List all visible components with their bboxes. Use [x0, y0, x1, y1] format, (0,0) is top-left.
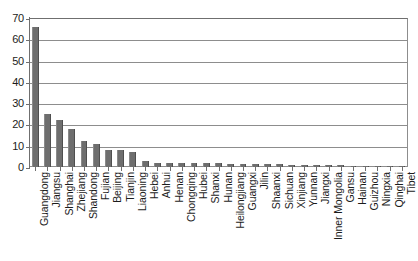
x-axis-tick-label: Beijing [112, 172, 123, 203]
bar [117, 150, 124, 167]
x-axis-tick-label: Shaanxi [271, 172, 282, 209]
x-axis-tick-marks [29, 167, 408, 171]
x-axis-tick-mark [219, 167, 220, 171]
x-axis-tick-label: Tibet [406, 172, 417, 194]
x-axis-tick-mark [170, 167, 171, 171]
x-axis-tick-label: Hebei [149, 172, 160, 199]
x-axis-tick-mark [182, 167, 183, 171]
x-axis-tick-label: Jilin [259, 172, 270, 190]
y-axis-tick-label: 20 [12, 118, 24, 130]
x-axis-tick-label: Chongqing [186, 172, 197, 222]
y-axis-tick-label: 70 [12, 12, 24, 24]
x-axis-tick-mark [267, 167, 268, 171]
x-axis-tick-mark [341, 167, 342, 171]
bar [81, 141, 88, 167]
x-axis-tick-label: Zhejiang [76, 172, 87, 211]
bar-series [29, 18, 408, 167]
x-axis-tick-label: Hubei [198, 172, 209, 199]
x-axis-tick-mark [377, 167, 378, 171]
x-axis-tick-mark [47, 167, 48, 171]
y-axis-tick-label: 10 [12, 140, 24, 152]
x-axis-tick-mark [121, 167, 122, 171]
bar-chart: 010203040506070 GuangdongJiangsuShanghai… [0, 0, 418, 261]
y-axis-tick-label: 30 [12, 97, 24, 109]
x-axis-tick-mark [231, 167, 232, 171]
x-axis-tick-label: Liaoning [137, 172, 148, 211]
x-axis-tick-mark [365, 167, 366, 171]
x-axis-tick-label: Hainan [357, 172, 368, 205]
x-axis-tick-label: Shanghai [64, 172, 75, 216]
bar [68, 129, 75, 167]
x-axis-tick-label: Tianjin [125, 172, 136, 202]
x-axis-tick-mark [133, 167, 134, 171]
x-axis-tick-label: Guangdong [39, 172, 50, 226]
bar [129, 152, 136, 167]
x-axis-tick-mark [243, 167, 244, 171]
x-axis-tick-mark [304, 167, 305, 171]
x-axis-tick-mark [206, 167, 207, 171]
x-axis-category-labels: GuangdongJiangsuShanghaiZhejiangShandong… [29, 172, 408, 261]
x-axis-tick-label: Xinjiang [296, 172, 307, 209]
x-axis-tick-mark [292, 167, 293, 171]
x-axis-tick-label: Shandong [88, 172, 99, 219]
x-axis-tick-label: Shanxi [210, 172, 221, 204]
bar [105, 150, 112, 167]
x-axis-tick-mark [60, 167, 61, 171]
x-axis-tick-mark [390, 167, 391, 171]
y-axis-tick-label: 60 [12, 33, 24, 45]
bar [93, 144, 100, 167]
x-axis-tick-label: Henan [174, 172, 185, 202]
x-axis-tick-mark [194, 167, 195, 171]
x-axis-tick-mark [255, 167, 256, 171]
x-axis-tick-label: Heilongjiang [235, 172, 246, 229]
x-axis-tick-mark [96, 167, 97, 171]
x-axis-tick-label: Guizhou [369, 172, 380, 210]
x-axis-tick-label: Hunan [223, 172, 234, 202]
x-axis-tick-label: Jiangsu [51, 172, 62, 208]
x-axis-tick-label: Sichuan [284, 172, 295, 209]
y-axis-tick-label: 50 [12, 55, 24, 67]
x-axis-tick-label: Guangxi [247, 172, 258, 210]
x-axis-tick-mark [145, 167, 146, 171]
x-axis-tick-label: Jiangxi [320, 172, 331, 204]
x-axis-tick-mark [84, 167, 85, 171]
x-axis-tick-mark [316, 167, 317, 171]
x-axis-tick-mark [353, 167, 354, 171]
x-axis-tick-label: Ningxia [381, 172, 392, 206]
x-axis-tick-label: Qinghai [394, 172, 405, 208]
x-axis-tick-mark [35, 167, 36, 171]
x-axis-tick-label: Inner Mongolia [333, 172, 344, 240]
x-axis-tick-label: Yunnan [308, 172, 319, 207]
x-axis-tick-mark [108, 167, 109, 171]
y-axis-labels: 010203040506070 [0, 0, 24, 261]
x-axis-tick-label: Gansu [345, 172, 356, 202]
bar [44, 114, 51, 167]
x-axis-tick-mark [280, 167, 281, 171]
x-axis-tick-mark [72, 167, 73, 171]
x-axis-tick-mark [329, 167, 330, 171]
x-axis-tick-mark [157, 167, 158, 171]
x-axis-tick-label: Anhui [161, 172, 172, 198]
x-axis-tick-mark [402, 167, 403, 171]
bar [56, 120, 63, 167]
bar [32, 27, 39, 167]
x-axis-tick-label: Fujian [100, 172, 111, 200]
y-axis-tick-label: 0 [18, 161, 24, 173]
y-axis-tick-label: 40 [12, 76, 24, 88]
